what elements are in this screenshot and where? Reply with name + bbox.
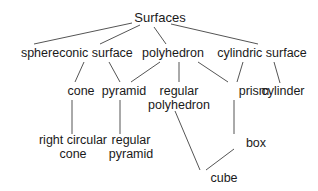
edge-surfaces-to-cylindric-surface [171,24,258,44]
edge-cylindric-surface-to-prism [237,62,243,82]
node-box: box [246,136,267,150]
nodes: Surfaces sphere conic surface polyhedron… [21,10,307,185]
node-sphere: sphere [21,46,59,60]
node-polyhedron: polyhedron [142,46,204,60]
edge-cylindric-surface-to-cylinder [274,62,280,83]
edge-conic-surface-to-cone [75,62,84,82]
node-conic-surface: conic surface [59,46,133,60]
node-pyramid: pyramid [102,84,147,98]
edge-box-to-cube [206,149,234,170]
edge-surfaces-to-polyhedron [154,27,166,44]
edge-surfaces-to-sphere [34,23,132,44]
edge-regular-polyhedron-to-cube [175,111,200,170]
edge-polyhedron-to-prism [198,62,228,82]
surfaces-hierarchy-diagram: Surfaces sphere conic surface polyhedron… [0,0,318,191]
node-regular-polyhedron: regularpolyhedron [148,84,210,112]
node-cone: cone [67,84,94,98]
node-surfaces: Surfaces [134,10,186,25]
edge-polyhedron-to-pyramid [131,62,160,82]
edge-conic-surface-to-pyramid [109,62,120,82]
node-regular-pyramid: regularpyramid [109,133,154,161]
node-right-circular-cone: right circularcone [39,133,107,161]
node-cube: cube [210,171,237,185]
node-cylindric-surface: cylindric surface [217,46,307,60]
node-cylinder: cylinder [261,84,304,98]
edge-surfaces-to-conic-surface [100,25,140,44]
